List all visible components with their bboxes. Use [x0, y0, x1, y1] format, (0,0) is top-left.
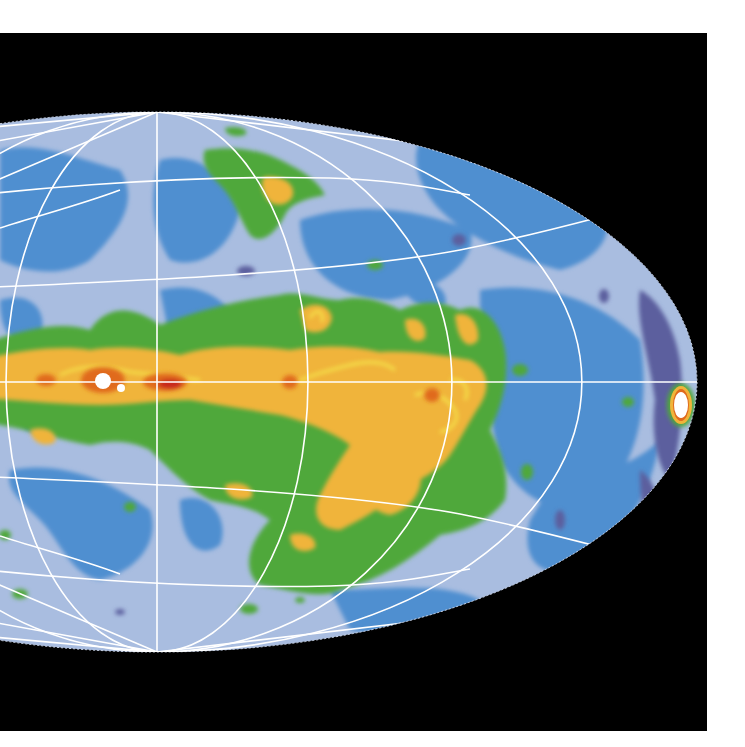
- map-panel: [0, 33, 707, 731]
- bright-source: [95, 373, 111, 389]
- bright-source-edge: [674, 392, 688, 418]
- bright-source: [117, 384, 125, 392]
- all-sky-map: [0, 33, 707, 731]
